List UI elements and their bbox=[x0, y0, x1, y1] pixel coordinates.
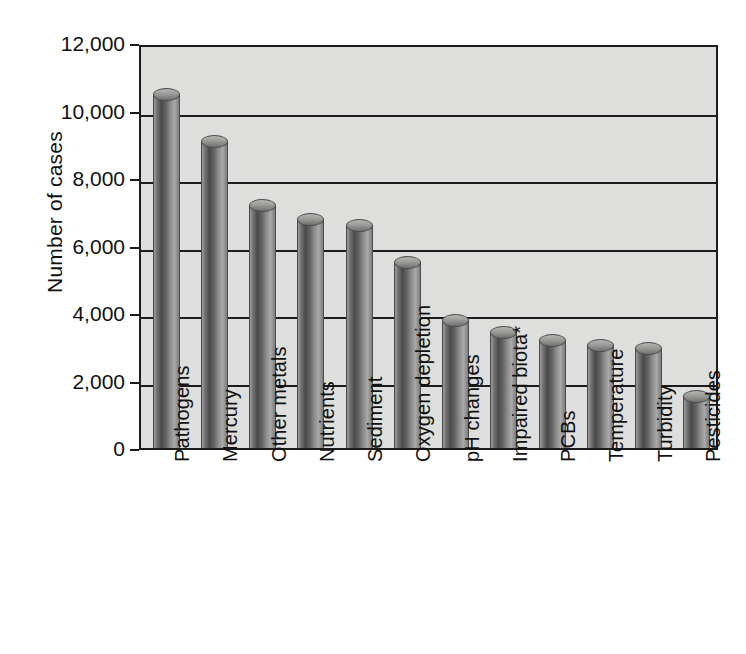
x-axis-tick-label: Oxygen depletion bbox=[412, 305, 435, 462]
x-axis-tick-label: Mercury bbox=[219, 389, 242, 462]
y-axis-tick-label: 0 bbox=[113, 437, 125, 461]
bar-cap-ellipse bbox=[201, 135, 228, 148]
x-axis-tick-label: Pathogens bbox=[171, 365, 194, 462]
x-axis-tick-label: Nutrients bbox=[316, 381, 339, 462]
bar-cap-ellipse bbox=[539, 334, 566, 347]
bar-cap-ellipse bbox=[249, 199, 276, 212]
y-axis-tick-label: 6,000 bbox=[72, 235, 125, 259]
x-axis-tick-label: pH changes bbox=[461, 354, 484, 462]
bar-cap-ellipse bbox=[394, 256, 421, 269]
y-axis-tick-mark bbox=[130, 247, 139, 249]
bar-cap-ellipse bbox=[346, 219, 373, 232]
y-axis-tick-mark bbox=[130, 382, 139, 384]
x-axis-tick-label: Other metals bbox=[268, 346, 291, 462]
bar-cap-ellipse bbox=[635, 342, 662, 355]
gridline bbox=[141, 115, 716, 117]
x-axis-tick-label: Turbidity bbox=[654, 385, 677, 462]
bar-cap-ellipse bbox=[297, 213, 324, 226]
bar-cap-ellipse bbox=[153, 88, 180, 101]
x-axis-tick-label: Temperature bbox=[605, 349, 628, 462]
x-axis-tick-label: Sediment bbox=[364, 377, 387, 462]
y-axis-tick-mark bbox=[130, 449, 139, 451]
x-axis-tick-label: PCBs bbox=[557, 410, 580, 462]
bar-chart-figure: Number of cases 02,0004,0006,0008,00010,… bbox=[0, 0, 746, 654]
x-axis-tick-label: Impaired biota* bbox=[509, 326, 532, 462]
y-axis-tick-label: 8,000 bbox=[72, 167, 125, 191]
y-axis-tick-label: 4,000 bbox=[72, 302, 125, 326]
y-axis-tick-label: 12,000 bbox=[61, 32, 125, 56]
y-axis-tick-label: 2,000 bbox=[72, 370, 125, 394]
y-axis-tick-mark bbox=[130, 112, 139, 114]
x-axis-tick-label: Pesticides bbox=[702, 370, 725, 462]
bar-cap-ellipse bbox=[442, 314, 469, 327]
y-axis-tick-mark bbox=[130, 44, 139, 46]
y-axis-tick-mark bbox=[130, 314, 139, 316]
y-axis-tick-label: 10,000 bbox=[61, 100, 125, 124]
y-axis-tick-mark bbox=[130, 179, 139, 181]
